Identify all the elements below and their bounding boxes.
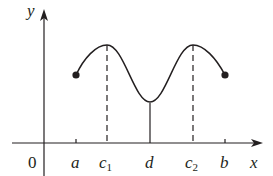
y-axis-label: y (25, 1, 35, 20)
function-curve (76, 45, 225, 102)
y-axis (40, 9, 48, 176)
x-axis-label: x (249, 153, 258, 172)
function-graph-figure: y x 0 a c1 d c2 b (0, 0, 273, 176)
guide-lines (107, 45, 193, 143)
origin-label: 0 (28, 153, 37, 172)
tick-label-d: d (145, 153, 154, 172)
tick-label-c2: c2 (185, 153, 198, 173)
endpoint-a-dot (72, 71, 79, 78)
endpoint-b-dot (221, 71, 228, 78)
tick-label-c1: c1 (99, 153, 112, 173)
tick-label-b: b (220, 153, 229, 172)
tick-label-a: a (71, 153, 80, 172)
